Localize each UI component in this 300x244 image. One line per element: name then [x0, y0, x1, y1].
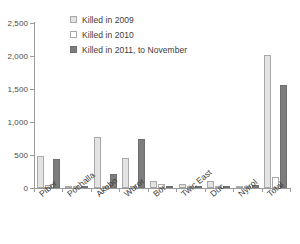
- y-axis-tick-label: 0: [0, 184, 28, 193]
- x-axis-tick: [148, 188, 149, 192]
- x-axis-tick: [262, 188, 263, 192]
- bar-group: [62, 23, 90, 188]
- light-gray-swatch: [70, 16, 77, 23]
- bar-group: [205, 23, 233, 188]
- x-axis-tick: [62, 188, 63, 192]
- bar: [37, 156, 44, 188]
- bar: [122, 158, 129, 188]
- y-axis-tick-label: 500: [0, 151, 28, 160]
- y-axis-tick-label: 2,000: [0, 52, 28, 61]
- bar-group: [119, 23, 147, 188]
- bar: [94, 137, 101, 188]
- bar-group: [176, 23, 204, 188]
- x-axis-tick: [176, 188, 177, 192]
- y-axis-tick-label: 1,500: [0, 85, 28, 94]
- x-axis-tick: [233, 188, 234, 192]
- bar: [166, 186, 173, 188]
- bar-group: [91, 23, 119, 188]
- x-axis-tick: [91, 188, 92, 192]
- bar: [280, 85, 287, 188]
- x-axis-tick: [290, 188, 291, 192]
- x-axis-tick: [119, 188, 120, 192]
- bar-chart: 05001,0001,5002,0002,500 Killed in 2009 …: [0, 0, 300, 244]
- y-axis-tick-label: 2,500: [0, 19, 28, 28]
- y-axis-tick-label: 1,000: [0, 118, 28, 127]
- bar-group: [233, 23, 261, 188]
- bar-group: [262, 23, 290, 188]
- x-axis-tick: [34, 188, 35, 192]
- x-axis-tick: [205, 188, 206, 192]
- bar-group: [34, 23, 62, 188]
- bar: [264, 55, 271, 188]
- bar-group: [148, 23, 176, 188]
- plot-area: [34, 23, 290, 188]
